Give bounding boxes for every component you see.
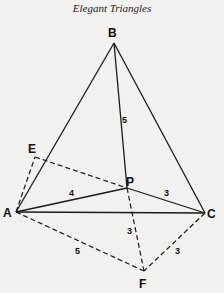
triangle-diagram: B A C P E F 5 4 3 3 5 3	[0, 0, 224, 293]
label-C: C	[207, 207, 216, 221]
label-B: B	[108, 26, 117, 40]
segment-CF	[144, 213, 205, 271]
length-AP: 4	[69, 188, 74, 198]
label-P: P	[126, 175, 134, 189]
length-CF: 3	[175, 246, 180, 256]
length-BP: 5	[122, 115, 127, 125]
segment-AB	[16, 43, 114, 212]
length-AF: 5	[75, 246, 80, 256]
length-PF: 3	[127, 226, 132, 236]
segment-EP	[35, 157, 127, 188]
length-PC: 3	[164, 188, 169, 198]
label-F: F	[139, 277, 146, 291]
label-E: E	[28, 142, 36, 156]
segment-AC	[16, 212, 205, 213]
label-A: A	[3, 206, 12, 220]
segment-AF	[16, 212, 144, 271]
